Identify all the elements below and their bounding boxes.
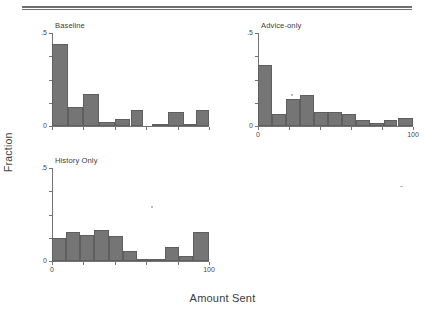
histogram-bar: [152, 124, 168, 126]
histogram-bar: [314, 112, 328, 126]
panel-title: Baseline: [55, 21, 85, 30]
bar-series: [52, 168, 209, 261]
histogram-bar: [184, 124, 197, 126]
x-axis-tick-label: 0: [50, 266, 54, 273]
histogram-bar: [115, 119, 131, 126]
x-axis-tick: [178, 127, 179, 130]
x-axis-tick-label: 100: [407, 131, 419, 138]
y-axis-tick-label: 0: [43, 122, 47, 129]
bar-series: [258, 33, 413, 126]
histogram-bar: [398, 118, 414, 126]
x-axis-tick: [258, 127, 259, 130]
histogram-bar: [68, 107, 84, 126]
histogram-bar: [356, 120, 370, 126]
panel-title: Advice-only: [261, 21, 301, 30]
histogram-bar: [66, 232, 80, 261]
histogram-bar: [342, 114, 356, 126]
histogram-bar: [286, 99, 300, 126]
histogram-bar: [52, 238, 66, 261]
histogram-bar: [258, 65, 272, 126]
panel-title: History Only: [55, 156, 98, 165]
x-axis-tick: [115, 262, 116, 265]
histogram-bar: [151, 259, 165, 261]
y-axis-tick-label: 0: [43, 257, 47, 264]
x-axis-line: [52, 126, 209, 127]
histogram-bar: [123, 251, 137, 261]
header-rule: [22, 6, 412, 10]
header-rule-line-top: [22, 6, 412, 8]
scan-artifact: [400, 186, 403, 187]
x-axis-tick: [209, 127, 210, 130]
histogram-bar: [179, 256, 193, 261]
histogram-bar: [165, 247, 179, 261]
x-axis-tick: [209, 262, 210, 265]
y-axis-tick-label: .5: [247, 29, 253, 36]
histogram-bar: [94, 230, 108, 261]
x-axis-tick: [382, 127, 383, 130]
histogram-bar: [131, 110, 144, 126]
x-axis-tick-label: 0: [256, 131, 260, 138]
histogram-bar: [99, 122, 115, 126]
histogram-bar: [300, 95, 314, 126]
x-axis-title-text: Amount Sent: [190, 292, 256, 304]
y-axis-tick-label: .5: [41, 29, 47, 36]
x-axis-tick: [52, 262, 53, 265]
panel-baseline: Baseline0.5: [52, 33, 209, 148]
x-axis-tick-label: 100: [203, 266, 215, 273]
x-axis-tick: [115, 127, 116, 130]
x-axis-tick: [83, 262, 84, 265]
histogram-bar: [80, 235, 94, 261]
histogram-bar: [384, 120, 398, 126]
histogram-bar: [272, 114, 286, 126]
x-axis-tick: [83, 127, 84, 130]
x-axis-tick: [178, 262, 179, 265]
histogram-bar: [83, 94, 99, 126]
x-axis-tick: [52, 127, 53, 130]
y-axis-title-text: Fraction: [2, 132, 14, 172]
histogram-bar: [328, 112, 342, 126]
panel-history-only: History Only0.50100: [52, 168, 209, 283]
bar-series: [52, 33, 209, 126]
histogram-bar: [370, 123, 384, 126]
scan-artifact: [151, 206, 153, 208]
x-axis-line: [258, 126, 413, 127]
scan-artifact: [291, 94, 293, 96]
x-axis-tick: [289, 127, 290, 130]
x-axis-title: Amount Sent: [0, 292, 427, 304]
panel-advice-only: Advice-only0.50100: [258, 33, 413, 148]
histogram-bar: [137, 259, 151, 261]
x-axis-tick: [146, 127, 147, 130]
y-axis-tick-label: 0: [249, 122, 253, 129]
x-axis-tick: [146, 262, 147, 265]
y-axis-tick-label: .5: [41, 164, 47, 171]
x-axis-tick: [320, 127, 321, 130]
histogram-bar: [52, 44, 68, 126]
histogram-bar: [168, 112, 184, 126]
histogram-bar: [193, 232, 209, 261]
x-axis-tick: [351, 127, 352, 130]
plot-area: 0.5: [52, 33, 209, 126]
x-axis-tick: [413, 127, 414, 130]
header-rule-line-bottom: [22, 9, 412, 10]
plot-area: 0.50100: [258, 33, 413, 126]
x-axis-line: [52, 261, 209, 262]
histogram-bar: [109, 236, 123, 261]
plot-area: 0.50100: [52, 168, 209, 261]
histogram-bar: [196, 110, 209, 126]
